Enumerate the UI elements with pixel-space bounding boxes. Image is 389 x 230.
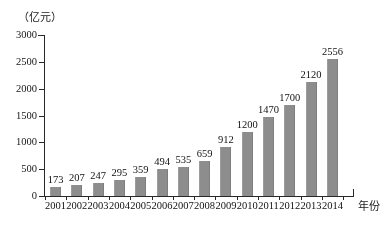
bar-value-label: 912: [211, 135, 241, 145]
bar: [242, 132, 253, 196]
bar: [50, 187, 61, 196]
bar: [199, 161, 210, 196]
y-axis-tick-label: 500: [21, 164, 37, 174]
bar: [284, 105, 295, 196]
bar-value-label: 2556: [317, 47, 347, 57]
y-axis-tick: [39, 142, 45, 143]
x-axis-end-tick: [353, 189, 354, 197]
y-axis-tick-label: 0: [32, 191, 37, 201]
bar: [114, 180, 125, 196]
bar: [327, 59, 338, 196]
y-axis-tick-label: 3000: [16, 30, 37, 40]
bar-value-label: 659: [190, 149, 220, 159]
y-axis-tick: [39, 89, 45, 90]
bar: [71, 185, 82, 196]
y-axis-tick-label: 2000: [16, 84, 37, 94]
bar: [157, 169, 168, 196]
y-axis-tick-label: 2500: [16, 57, 37, 67]
y-axis-tick-label: 1500: [16, 111, 37, 121]
bar: [263, 117, 274, 196]
bar: [135, 177, 146, 196]
bar: [306, 82, 317, 196]
y-axis-tick: [39, 62, 45, 63]
bar: [93, 183, 104, 196]
bar-value-label: 1470: [254, 105, 284, 115]
bar: [178, 167, 189, 196]
y-axis-tick: [39, 35, 45, 36]
y-axis-tick: [39, 116, 45, 117]
x-axis-title: 年份: [358, 197, 380, 213]
x-axis-line: [44, 196, 354, 197]
bar-value-label: 1700: [275, 93, 305, 103]
y-axis-tick: [39, 169, 45, 170]
bar: [220, 147, 231, 196]
bar-chart: （亿元） 050010001500200025003000 1732072472…: [0, 0, 389, 230]
y-axis-unit-label: （亿元）: [18, 8, 62, 24]
bar-value-label: 2120: [296, 70, 326, 80]
bar-value-label: 1200: [232, 120, 262, 130]
y-axis-tick-label: 1000: [16, 137, 37, 147]
x-axis-category-label: 2014: [320, 200, 344, 211]
